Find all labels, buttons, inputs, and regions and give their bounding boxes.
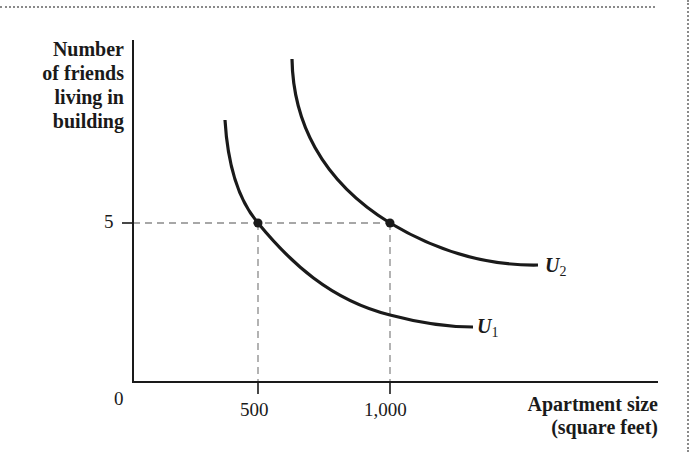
y-axis-label-line-3: living in bbox=[14, 85, 124, 109]
x-axis-label: Apartment size (square feet) bbox=[470, 393, 658, 439]
curve-label-u1-main: U bbox=[477, 315, 491, 337]
x-tick-label-500: 500 bbox=[240, 399, 269, 421]
curve-label-u2: U2 bbox=[545, 254, 566, 280]
curve-label-u2-main: U bbox=[545, 254, 559, 276]
curve-u2 bbox=[292, 59, 538, 265]
curve-label-u1-sub: 1 bbox=[491, 325, 498, 340]
curve-label-u2-sub: 2 bbox=[559, 264, 566, 279]
point-u1-500-5 bbox=[254, 219, 263, 228]
y-tick-label-5: 5 bbox=[104, 211, 114, 233]
curve-label-u1: U1 bbox=[477, 315, 498, 341]
x-axis-label-line-1: Apartment size bbox=[470, 393, 658, 416]
axes bbox=[122, 40, 658, 394]
point-u2-1000-5 bbox=[386, 219, 395, 228]
x-axis-label-line-2: (square feet) bbox=[470, 416, 658, 439]
y-axis-label-line-2: of friends bbox=[14, 61, 124, 85]
x-tick-label-1000: 1,000 bbox=[364, 399, 407, 421]
y-axis-label-line-1: Number bbox=[14, 37, 124, 61]
origin-label: 0 bbox=[114, 388, 124, 410]
y-axis-label: Number of friends living in building bbox=[14, 37, 124, 133]
y-axis-label-line-4: building bbox=[14, 109, 124, 133]
curves bbox=[225, 59, 538, 327]
